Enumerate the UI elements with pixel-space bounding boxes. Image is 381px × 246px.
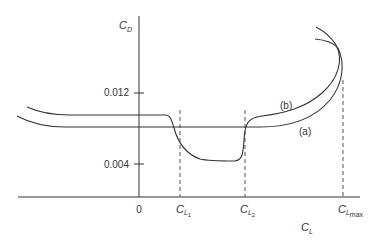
- y-axis-label: CD: [119, 19, 132, 33]
- curve-b: [27, 27, 340, 161]
- tick-label-0012: 0.012: [104, 87, 129, 98]
- cl1-label: CL1: [176, 203, 192, 218]
- clmax-label: CLmax: [338, 203, 364, 218]
- cl2-label: CL2: [240, 203, 256, 218]
- x-axis-label: CL: [301, 221, 313, 235]
- curve-b-label: (b): [280, 100, 292, 111]
- origin-label: 0: [136, 204, 142, 215]
- tick-label-0004: 0.004: [104, 159, 129, 170]
- drag-polar-diagram: 0.012 0.004 CD 0 CL1 CL2 CLmax CL (a) (b…: [0, 0, 381, 246]
- curve-a-label: (a): [299, 126, 311, 137]
